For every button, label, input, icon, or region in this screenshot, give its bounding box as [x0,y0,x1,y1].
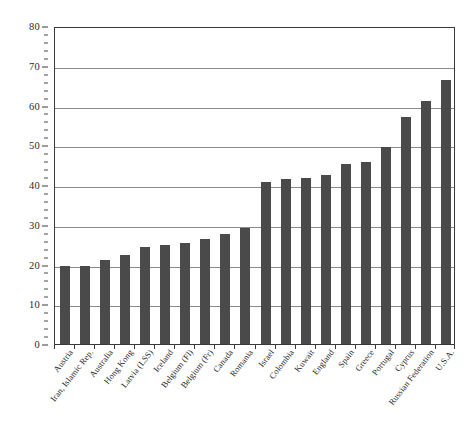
y-minor-tick [44,289,48,290]
y-minor-tick [44,201,48,202]
y-tick-label-80: 80 [29,22,40,33]
y-minor-tick [44,233,48,234]
y-tick-label-0: 0 [35,340,40,351]
y-tick-label-20: 20 [29,260,40,271]
x-tick-label: U.S.A. [434,348,456,372]
y-tick-label-30: 30 [29,221,40,232]
bar [240,228,250,344]
y-minor-tick [44,154,48,155]
bar [261,182,271,344]
bar [341,164,351,344]
bar [321,175,331,344]
y-major-tick-80 [42,27,48,28]
bar [281,179,291,344]
bar-chart: 01020304050607080 AustriaIran, Islamic R… [0,0,475,421]
y-major-tick-60 [42,106,48,107]
bar [381,147,391,344]
y-minor-tick [44,130,48,131]
y-minor-tick [44,122,48,123]
y-tick-label-50: 50 [29,141,40,152]
y-minor-tick [44,50,48,51]
y-minor-tick [44,58,48,59]
y-minor-tick [44,257,48,258]
y-minor-tick [44,313,48,314]
bar [160,245,170,344]
y-major-tick-20 [42,265,48,266]
y-minor-tick [44,74,48,75]
plot-area [54,27,455,345]
y-major-tick-50 [42,146,48,147]
y-major-tick-40 [42,186,48,187]
y-major-tick-30 [42,225,48,226]
y-minor-tick [44,241,48,242]
y-major-tick-10 [42,305,48,306]
bar [401,117,411,344]
y-minor-tick [44,90,48,91]
y-minor-tick [44,34,48,35]
bar [120,255,130,344]
y-minor-tick [44,170,48,171]
y-major-tick-70 [42,66,48,67]
y-minor-tick [44,249,48,250]
bar [180,243,190,344]
y-tick-label-40: 40 [29,181,40,192]
x-axis-labels: AustriaIran, Islamic Rep.AustraliaHong K… [54,348,455,421]
y-minor-tick [44,273,48,274]
bars-group [55,28,454,344]
y-major-tick-0 [42,345,48,346]
y-minor-tick [44,337,48,338]
bar [441,80,451,344]
y-tick-label-10: 10 [29,300,40,311]
bar [421,101,431,344]
y-tick-label-70: 70 [29,62,40,73]
y-axis: 01020304050607080 [0,27,48,345]
y-minor-tick [44,178,48,179]
bar [301,178,311,344]
y-minor-tick [44,281,48,282]
bar [100,260,110,344]
bar [60,266,70,344]
y-minor-tick [44,329,48,330]
bar [80,266,90,344]
y-minor-tick [44,209,48,210]
bar [140,247,150,344]
bar [361,162,371,344]
y-minor-tick [44,193,48,194]
y-minor-tick [44,321,48,322]
y-minor-tick [44,297,48,298]
y-minor-tick [44,217,48,218]
bar [220,234,230,344]
y-minor-tick [44,98,48,99]
y-minor-tick [44,138,48,139]
bar [200,239,210,344]
y-minor-tick [44,162,48,163]
y-minor-tick [44,82,48,83]
y-tick-label-60: 60 [29,101,40,112]
y-minor-tick [44,114,48,115]
y-minor-tick [44,42,48,43]
